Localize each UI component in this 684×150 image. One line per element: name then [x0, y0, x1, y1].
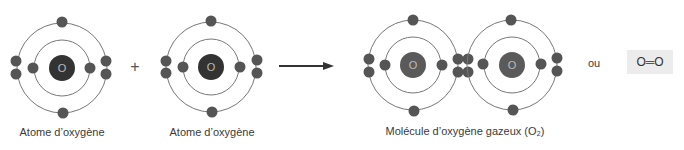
- nucleus-symbol: O: [508, 59, 517, 71]
- reaction-arrow: [279, 62, 334, 70]
- atom-1-label: Atome d’oxygène: [20, 126, 105, 138]
- molecule-atom-right: O: [467, 15, 563, 116]
- molecule-label: Molécule d’oxygène gazeux (O₂): [386, 125, 545, 137]
- plus-sign: +: [130, 58, 139, 75]
- structural-formula: O═O: [627, 50, 673, 74]
- oxygen-atom-1: O: [11, 17, 112, 119]
- atom-2-label: Atome d’oxygène: [170, 126, 255, 138]
- oxygen-atom-2: O: [161, 16, 263, 118]
- shared-electrons: [453, 54, 474, 78]
- nucleus-symbol: O: [409, 59, 418, 71]
- nucleus-symbol: O: [207, 61, 216, 73]
- nucleus-symbol: O: [58, 62, 67, 74]
- or-text: ou: [588, 57, 600, 69]
- molecule-atom-left: O: [364, 15, 459, 117]
